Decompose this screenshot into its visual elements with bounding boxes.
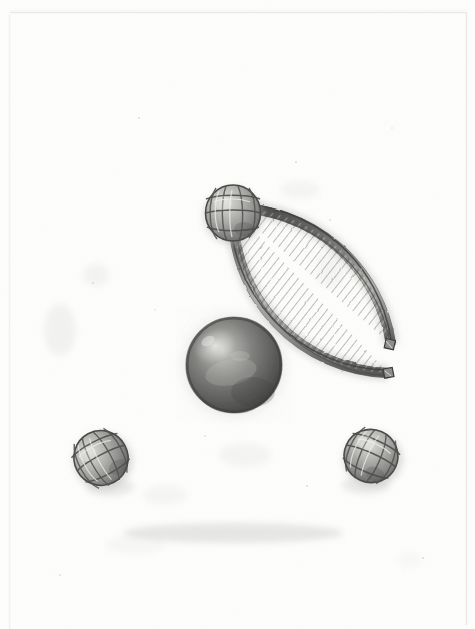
rope-end-lower <box>383 367 394 378</box>
graphite-drawing <box>0 0 475 629</box>
monkeys-fist-knot-top <box>203 185 263 245</box>
shaded-sphere <box>174 306 294 426</box>
rope-end-upper <box>384 339 395 350</box>
drawing-canvas: Rope ring with three monkey's-fist knots… <box>0 0 475 629</box>
